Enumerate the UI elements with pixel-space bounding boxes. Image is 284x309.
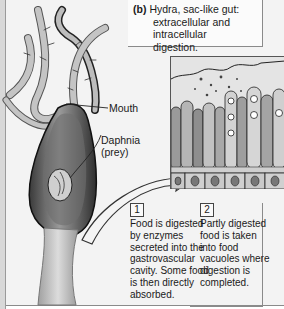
tentacles <box>6 10 105 126</box>
step-2-number: 2 <box>200 203 214 217</box>
gut-lining-inset <box>170 56 284 189</box>
hydra-stalk <box>38 228 78 305</box>
daphnia-prey <box>48 169 72 201</box>
step-2-line: Partly digested <box>200 218 269 230</box>
panel-label: (b) <box>133 3 146 15</box>
gut-lining-illustration <box>171 57 284 189</box>
caption-line-1: Hydra, sac-like gut: <box>149 3 239 15</box>
daphnia-label: Daphnia <box>101 134 140 146</box>
step-2-line: food is taken <box>200 230 269 242</box>
daphnia-prey-label: (prey) <box>101 146 128 158</box>
step-1-number: 1 <box>130 203 144 217</box>
mouth-label: Mouth <box>109 102 138 114</box>
step-2-line: into food <box>200 242 269 254</box>
figure-caption: (b)Hydra, sac-like gut: extracellular an… <box>133 3 283 53</box>
step-2-line: completed. <box>200 277 269 289</box>
step-2-line: digestion is <box>200 265 269 277</box>
step-2-line: vacuoles where <box>200 253 269 265</box>
caption-line-2: extracellular and intracellular <box>133 16 283 41</box>
step-2-description: Partly digested food is taken into food … <box>200 218 269 289</box>
caption-line-3: digestion. <box>133 41 283 54</box>
